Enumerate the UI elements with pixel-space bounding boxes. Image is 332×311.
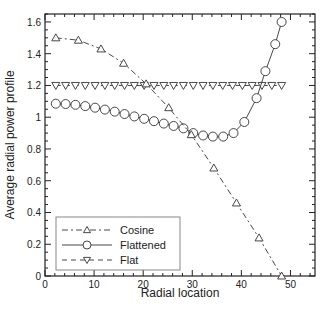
triangle-up-marker-icon [255,234,263,241]
circle-marker-icon [261,67,270,76]
series-flattened [51,17,286,141]
triangle-down-marker-icon [229,82,237,89]
triangle-down-marker-icon [111,82,119,89]
triangle-down-marker-icon [81,82,89,89]
triangle-down-marker-icon [209,82,217,89]
circle-marker-icon [51,99,60,108]
legend-label: Flattened [120,239,166,251]
triangle-down-marker-icon [199,82,207,89]
y-tick-label: 0.4 [27,207,41,218]
triangle-down-marker-icon [62,82,70,89]
x-tick-label: 40 [236,279,248,290]
triangle-down-marker-icon [258,82,266,89]
y-tick-label: 1 [35,112,41,123]
triangle-down-marker-icon [189,82,197,89]
circle-marker-icon [229,129,238,138]
y-tick-label: 1.6 [27,17,41,28]
y-tick-label: 0 [35,271,41,282]
circle-marker-icon [219,132,228,141]
triangle-up-marker-icon [120,59,128,66]
circle-marker-icon [81,102,90,111]
x-tick-label: 10 [89,279,101,290]
triangle-down-marker-icon [170,82,178,89]
series-flat [52,82,286,89]
y-tick-label: 0.6 [27,176,41,187]
x-axis-label: Radial location [141,286,220,300]
legend: CosineFlattenedFlat [56,217,180,270]
triangle-down-marker-icon [91,82,99,89]
circle-marker-icon [61,100,70,109]
circle-marker-icon [140,114,149,123]
circle-marker-icon [91,103,100,112]
legend-label: Flat [120,254,138,266]
circle-marker-icon [277,17,286,26]
circle-marker-icon [83,241,91,249]
circle-marker-icon [120,110,129,119]
circle-marker-icon [100,105,109,114]
triangle-up-marker-icon [210,164,218,171]
circle-marker-icon [169,121,178,130]
triangle-up-marker-icon [97,45,105,52]
triangle-down-marker-icon [278,82,286,89]
legend-label: Cosine [120,224,154,236]
circle-marker-icon [130,112,139,121]
circle-marker-icon [199,131,208,140]
triangle-down-marker-icon [179,82,187,89]
triangle-down-marker-icon [130,82,138,89]
y-tick-label: 0.2 [27,239,41,250]
y-tick-label: 1.4 [27,49,41,60]
y-tick-label: 1.2 [27,80,41,91]
triangle-down-marker-icon [71,82,79,89]
circle-marker-icon [149,117,158,126]
x-tick-label: 0 [42,279,48,290]
y-axis-label: Average radial power profile [3,70,17,220]
circle-marker-icon [271,40,280,49]
circle-marker-icon [110,107,119,116]
circle-marker-icon [71,100,80,109]
triangle-up-marker-icon [165,104,173,111]
triangle-down-marker-icon [248,82,256,89]
circle-marker-icon [240,117,249,126]
triangle-down-marker-icon [238,82,246,89]
circle-marker-icon [252,94,261,103]
triangle-down-marker-icon [160,82,168,89]
x-tick-label: 50 [285,279,297,290]
circle-marker-icon [159,119,168,128]
triangle-up-marker-icon [232,199,240,206]
y-tick-label: 0.8 [27,144,41,155]
triangle-down-marker-icon [268,82,276,89]
line-chart: 01020304050 00.20.40.60.811.21.41.6 Cosi… [0,0,332,311]
triangle-up-marker-icon [52,34,60,41]
triangle-down-marker-icon [150,82,158,89]
triangle-down-marker-icon [219,82,227,89]
triangle-down-marker-icon [52,82,60,89]
circle-marker-icon [208,132,217,141]
triangle-down-marker-icon [121,82,129,89]
triangle-down-marker-icon [101,82,109,89]
